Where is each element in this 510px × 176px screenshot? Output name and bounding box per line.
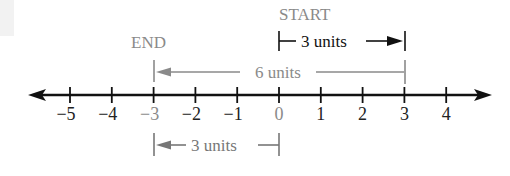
tick-label: −1 — [224, 104, 243, 124]
number-line-diagram: START END 3 units 6 units −5−4−3−2−10123… — [0, 0, 510, 176]
tick-label: 1 — [316, 104, 325, 124]
start-label: START — [279, 5, 331, 24]
top-arrow-label: 3 units — [301, 32, 347, 51]
tick-label: 4 — [442, 104, 451, 124]
bottom-arrow: 3 units — [154, 133, 279, 156]
tick-label: 2 — [358, 104, 367, 124]
end-label: END — [131, 33, 166, 52]
axis: −5−4−3−2−101234 — [28, 87, 492, 124]
middle-arrow-label: 6 units — [255, 63, 301, 82]
tick-label: 0 — [275, 104, 284, 124]
bottom-arrow-label: 3 units — [191, 136, 237, 155]
tick-label: −3 — [140, 104, 159, 124]
corner-shade — [0, 0, 14, 36]
middle-arrow: 6 units — [154, 60, 405, 84]
tick-label: −4 — [98, 104, 117, 124]
tick-label: −5 — [56, 104, 75, 124]
tick-label: −2 — [182, 104, 201, 124]
tick-label: 3 — [400, 104, 409, 124]
top-arrow: 3 units — [279, 31, 405, 51]
top-arrow-head — [387, 36, 403, 46]
